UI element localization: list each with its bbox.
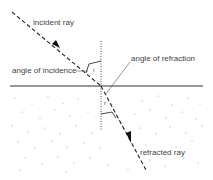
angle-i-symbol: i <box>93 67 94 73</box>
medium-speckle <box>11 95 202 172</box>
refracted-ray-label: refracted ray <box>140 149 185 157</box>
incident-ray-label: incident ray <box>33 19 74 27</box>
refracted-arrow-icon <box>126 131 131 143</box>
refraction-diagram: incident ray angle of incidence i angle … <box>0 0 213 180</box>
angle-of-refraction-label: angle of refraction <box>131 55 195 63</box>
refraction-angle-arc <box>101 112 116 118</box>
angle-of-incidence-label: angle of incidence <box>12 67 77 75</box>
angle-r-symbol: r <box>104 100 106 106</box>
refracted-ray-line <box>101 86 146 170</box>
refraction-leader-line <box>105 62 130 95</box>
